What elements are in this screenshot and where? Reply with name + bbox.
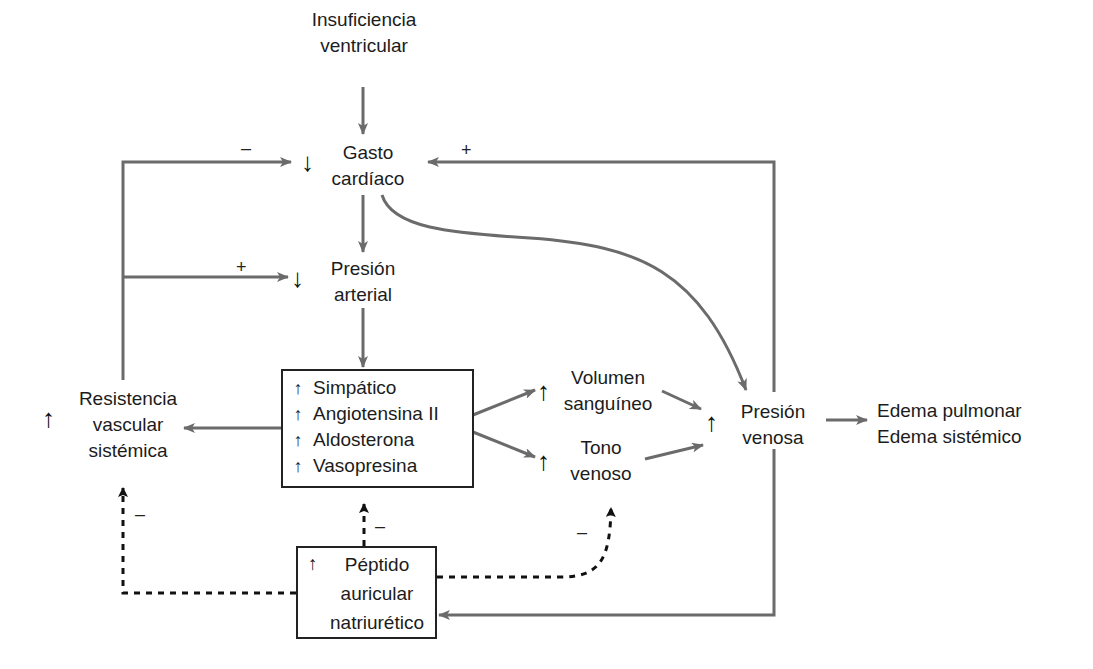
node-line: venosa bbox=[728, 425, 818, 451]
sign-plus: + bbox=[236, 258, 247, 276]
box-item-simpatico: ↑ Simpático bbox=[289, 375, 472, 401]
node-line: arterial bbox=[318, 282, 408, 308]
increase-arrow-icon: ↑ bbox=[705, 409, 718, 435]
increase-arrow-icon: ↑ bbox=[289, 401, 307, 427]
node-line: auricular bbox=[318, 579, 436, 608]
node-volumen-sanguineo: Volumen sanguíneo bbox=[555, 365, 661, 417]
increase-arrow-icon: ↑ bbox=[289, 375, 307, 401]
sign-plus: + bbox=[461, 141, 472, 159]
node-line: vascular bbox=[68, 412, 188, 438]
arrow-volumen-to-venosa bbox=[662, 391, 701, 409]
node-line: venoso bbox=[558, 461, 644, 487]
increase-arrow-icon: ↑ bbox=[308, 552, 318, 576]
node-tono-venoso: Tono venoso bbox=[558, 435, 644, 487]
increase-arrow-icon: ↑ bbox=[289, 453, 307, 479]
node-presion-venosa: Presión venosa bbox=[728, 399, 818, 451]
node-resistencia-vascular: Resistencia vascular sistémica bbox=[68, 386, 188, 464]
node-presion-arterial: Presión arterial bbox=[318, 256, 408, 308]
diagram-connectors bbox=[0, 0, 1093, 669]
node-line: Gasto bbox=[318, 140, 418, 166]
arrow-box-to-tono bbox=[473, 432, 535, 457]
increase-arrow-icon: ↑ bbox=[537, 448, 550, 474]
peptido-box: ↑ Péptido auricular natriurético bbox=[296, 546, 437, 639]
node-line: natriurético bbox=[318, 608, 436, 637]
sign-minus: – bbox=[577, 523, 587, 541]
increase-arrow-icon: ↑ bbox=[289, 427, 307, 453]
arrow-tono-to-venosa bbox=[645, 445, 703, 459]
node-line: Péptido bbox=[318, 550, 436, 579]
sign-minus: – bbox=[241, 139, 251, 157]
node-line: sanguíneo bbox=[555, 391, 661, 417]
box-item-aldosterona: ↑ Aldosterona bbox=[289, 427, 472, 453]
box-item-label: Vasopresina bbox=[313, 453, 417, 479]
node-line: ventricular bbox=[294, 33, 434, 59]
box-item-angiotensina: ↑ Angiotensina II bbox=[289, 401, 472, 427]
box-item-label: Angiotensina II bbox=[313, 401, 439, 427]
node-line: sistémica bbox=[68, 438, 188, 464]
node-line: Insuficiencia bbox=[294, 7, 434, 33]
decrease-arrow-icon: ↓ bbox=[301, 149, 314, 175]
box-item-label: Aldosterona bbox=[313, 427, 414, 453]
node-line: Presión bbox=[318, 256, 408, 282]
dashed-anp-to-resistencia bbox=[123, 488, 296, 593]
increase-arrow-icon: ↑ bbox=[537, 378, 550, 404]
node-gasto-cardiaco: Gasto cardíaco bbox=[318, 140, 418, 192]
node-edema: Edema pulmonar Edema sistémico bbox=[877, 398, 1022, 450]
peptido-label: Péptido auricular natriurético bbox=[318, 550, 436, 637]
arrow-resistencia-to-gasto bbox=[123, 162, 291, 380]
arrow-box-to-volumen bbox=[473, 390, 535, 415]
box-item-label: Simpático bbox=[313, 375, 396, 401]
arrow-gasto-to-venosa bbox=[382, 195, 746, 390]
sign-minus: – bbox=[135, 505, 145, 523]
decrease-arrow-icon: ↓ bbox=[291, 265, 304, 291]
node-line: Presión bbox=[728, 399, 818, 425]
node-line: cardíaco bbox=[318, 166, 418, 192]
node-insuficiencia-ventricular: Insuficiencia ventricular bbox=[294, 7, 434, 59]
node-line: Volumen bbox=[555, 365, 661, 391]
increase-arrow-icon: ↑ bbox=[42, 405, 55, 431]
node-line: Edema pulmonar bbox=[877, 398, 1022, 424]
dashed-anp-to-tono bbox=[437, 508, 611, 577]
node-line: Edema sistémico bbox=[877, 424, 1022, 450]
arrow-venosa-to-gasto bbox=[428, 162, 774, 392]
node-line: Resistencia bbox=[68, 386, 188, 412]
box-item-vasopresina: ↑ Vasopresina bbox=[289, 453, 472, 479]
sign-minus: – bbox=[375, 517, 385, 535]
node-line: Tono bbox=[558, 435, 644, 461]
neurohumoral-box: ↑ Simpático ↑ Angiotensina II ↑ Aldoster… bbox=[281, 369, 474, 488]
